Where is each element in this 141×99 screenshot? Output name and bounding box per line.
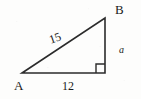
vertex-label-a: A xyxy=(14,79,23,92)
vertex-label-b: B xyxy=(115,3,124,16)
right-angle-icon xyxy=(96,64,105,73)
triangle-diagram: B A 15 12 a xyxy=(0,0,141,99)
triangle-outline xyxy=(22,18,105,73)
side-label-vertical: a xyxy=(119,45,124,55)
side-label-base: 12 xyxy=(62,80,74,92)
